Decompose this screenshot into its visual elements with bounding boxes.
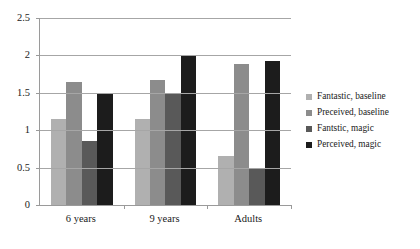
legend-item[interactable]: Preceived, baseline <box>306 105 420 121</box>
y-axis-tick-label: 0 <box>25 200 30 211</box>
legend-item-label: Perceived, magic <box>317 140 381 149</box>
bar-group <box>218 18 280 205</box>
legend-swatch-icon <box>306 94 312 100</box>
bar <box>97 93 112 205</box>
bar <box>66 82 81 205</box>
chart-legend: Fantastic, baselinePreceived, baselineFa… <box>306 89 420 153</box>
legend-item-label: Fantstic, magic <box>317 124 374 133</box>
y-axis-tick-label: 0.5 <box>17 162 30 173</box>
gridline <box>40 130 291 131</box>
bar-group <box>135 18 197 205</box>
y-axis-tick <box>36 130 40 131</box>
bars-layer <box>40 18 291 205</box>
bar <box>135 119 150 205</box>
bar <box>165 93 180 205</box>
y-axis-tick-label: 1 <box>25 125 30 136</box>
legend-item[interactable]: Perceived, magic <box>306 137 420 153</box>
bar-chart: 00.511.522.5 6 years9 yearsAdults Fantas… <box>0 0 420 249</box>
y-axis-tick <box>36 55 40 56</box>
bar-group <box>51 18 113 205</box>
gridline <box>40 93 291 94</box>
plot-wrapper: 00.511.522.5 6 years9 yearsAdults <box>0 0 300 249</box>
gridline <box>40 168 291 169</box>
x-axis: 6 years9 yearsAdults <box>39 206 290 236</box>
y-axis-tick-label: 2 <box>25 50 30 61</box>
bar <box>249 169 264 205</box>
y-axis-tick-label: 1.5 <box>17 88 30 99</box>
legend-item-label: Preceived, baseline <box>317 108 389 117</box>
bar <box>234 64 249 205</box>
legend-swatch-icon <box>306 142 312 148</box>
gridline <box>40 55 291 56</box>
y-axis-tick <box>36 168 40 169</box>
legend-swatch-icon <box>306 126 312 132</box>
bar <box>265 61 280 205</box>
legend-swatch-icon <box>306 110 312 116</box>
y-axis: 00.511.522.5 <box>0 0 34 249</box>
bar <box>150 80 165 205</box>
legend-item[interactable]: Fantastic, baseline <box>306 89 420 105</box>
plot-area <box>39 18 291 206</box>
bar <box>51 119 66 205</box>
x-axis-category-label: Adults <box>234 214 262 225</box>
x-axis-tick <box>291 205 292 209</box>
x-axis-category-label: 9 years <box>149 214 179 225</box>
y-axis-tick <box>36 18 40 19</box>
bar <box>82 141 97 205</box>
gridline <box>40 18 291 19</box>
legend-item[interactable]: Fantstic, magic <box>306 121 420 137</box>
y-axis-tick-label: 2.5 <box>17 13 30 24</box>
x-axis-category-label: 6 years <box>66 214 96 225</box>
legend-item-label: Fantastic, baseline <box>317 92 386 101</box>
bar <box>218 156 233 205</box>
y-axis-tick <box>36 93 40 94</box>
